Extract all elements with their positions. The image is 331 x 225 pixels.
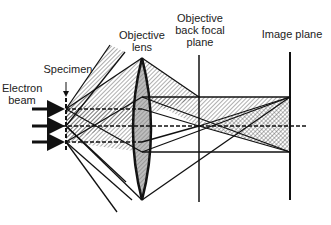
back-focal-plane-label: Objective back focal plane	[168, 12, 232, 48]
image-plane-label: Image plane	[258, 28, 326, 40]
specimen-label: Specimen	[40, 63, 96, 75]
electron-beam-label: Electron beam	[2, 82, 42, 106]
objective-lens-label: Objective lens	[112, 29, 172, 53]
electron-beam-arrows	[32, 109, 56, 142]
